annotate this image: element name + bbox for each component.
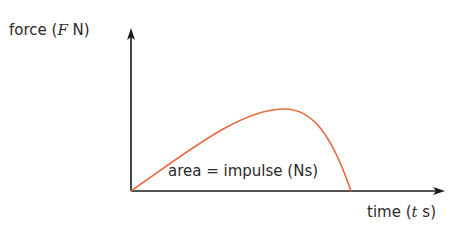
x-axis-label: time (t s) <box>367 203 436 221</box>
x-axis-label-prefix: time ( <box>367 203 412 221</box>
x-axis-label-suffix: s) <box>418 203 436 221</box>
y-axis-symbol: F <box>57 21 67 39</box>
y-axis-label-suffix: N) <box>68 21 90 39</box>
y-axis-label: force (F N) <box>9 21 90 39</box>
area-label: area = impulse (Ns) <box>168 162 318 180</box>
y-axis-label-prefix: force ( <box>9 21 57 39</box>
